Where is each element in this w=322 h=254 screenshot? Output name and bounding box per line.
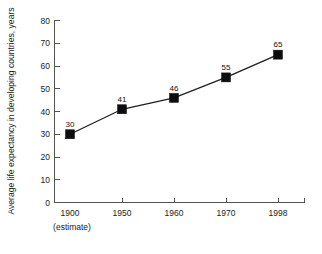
- data-point-label: 30: [66, 120, 75, 129]
- y-tick-label: 0: [45, 198, 50, 208]
- y-tick-label: 60: [41, 61, 51, 71]
- data-point-markers: [66, 50, 283, 139]
- chart-figure: Average life expectancy in developing co…: [0, 0, 322, 254]
- y-axis-tick-labels: 80 70 60 50 40 30 20 10 0: [41, 16, 51, 208]
- x-axis-ticks: [123, 198, 305, 203]
- data-point-marker: [66, 130, 75, 139]
- x-tick-label: 1950: [113, 208, 132, 218]
- data-point-marker: [274, 50, 283, 59]
- y-tick-label: 10: [41, 175, 51, 185]
- x-tick-label: 1998: [269, 208, 288, 218]
- x-tick-label: 1960: [165, 208, 184, 218]
- data-point-label: 46: [170, 84, 179, 93]
- y-tick-label: 70: [41, 38, 51, 48]
- x-axis-tick-labels: 1900 1950 1960 1970 1998 (estimate): [53, 208, 288, 232]
- data-point-label: 41: [118, 95, 127, 104]
- y-axis-title: Average life expectancy in developing co…: [6, 7, 16, 214]
- data-point-marker: [170, 93, 179, 102]
- x-tick-sublabel-estimate: (estimate): [53, 222, 91, 232]
- y-tick-label: 50: [41, 84, 51, 94]
- data-point-label: 65: [274, 40, 283, 49]
- axis-spines: [55, 20, 306, 203]
- data-point-marker: [222, 73, 231, 82]
- x-tick-label: 1900: [61, 208, 80, 218]
- y-tick-label: 80: [41, 16, 51, 26]
- data-point-label: 55: [222, 63, 231, 72]
- y-tick-label: 40: [41, 107, 51, 117]
- data-point-labels: 30 41 46 55 65: [66, 40, 283, 129]
- y-tick-label: 20: [41, 152, 51, 162]
- data-point-marker: [118, 105, 127, 114]
- y-tick-label: 30: [41, 129, 51, 139]
- line-chart: Average life expectancy in developing co…: [0, 0, 322, 254]
- x-tick-label: 1970: [217, 208, 236, 218]
- y-axis-ticks: [55, 21, 60, 203]
